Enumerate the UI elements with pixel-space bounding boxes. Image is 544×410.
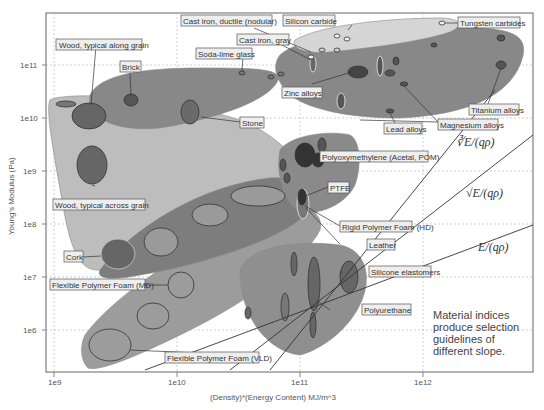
svg-text:different slope.: different slope.: [433, 345, 505, 357]
material-selection-chart: Wood, typical along grain Brick Cast iro…: [0, 0, 544, 410]
label-rigid-foam: Rigid Polymer Foam (HD): [340, 221, 434, 232]
svg-text:guidelines of: guidelines of: [433, 333, 496, 345]
label-silicone: Silicone elastomers: [369, 266, 440, 277]
label-titanium: Titanium alloys: [469, 104, 524, 115]
label-leather: Leather: [367, 239, 396, 250]
label-cork: Cork: [64, 251, 84, 262]
label-polyurethane: Polyurethane: [362, 304, 412, 315]
svg-text:Silicon carbide: Silicon carbide: [285, 17, 338, 26]
svg-text:1e10: 1e10: [168, 378, 186, 387]
y-tick-labels: 1e11 1e10 1e9 1e8 1e7 1e6: [20, 61, 38, 335]
svg-text:Polyurethane: Polyurethane: [364, 306, 412, 315]
label-brick: Brick: [120, 61, 141, 72]
svg-text:Titanium alloys: Titanium alloys: [471, 106, 524, 115]
label-cast-ductile: Cast iron, ductile (nodular): [181, 15, 277, 26]
label-zinc: Zinc alloys: [282, 87, 322, 98]
svg-text:Wood, typical across grain: Wood, typical across grain: [55, 201, 149, 210]
label-lead: Lead alloys: [384, 123, 426, 134]
label-ptfe: PTFE: [328, 182, 350, 193]
svg-text:Leather: Leather: [369, 241, 396, 250]
svg-text:Flexible Polymer Foam (MD): Flexible Polymer Foam (MD): [52, 281, 154, 290]
label-soda-glass: Soda-lime glass: [196, 48, 255, 59]
svg-text:1e11: 1e11: [20, 61, 38, 70]
svg-text:Material indices: Material indices: [433, 309, 510, 321]
label-magnesium: Magnesium alloys: [438, 119, 504, 130]
x-tick-labels: 1e9 1e10 1e11 1e12: [48, 378, 432, 387]
y-axis-ticks: [42, 65, 46, 330]
label-flex-md: Flexible Polymer Foam (MD): [50, 279, 154, 290]
formula-cbrt: ∛E/(qρ): [456, 134, 494, 149]
x-axis-ticks: [54, 372, 423, 377]
svg-text:produce selection: produce selection: [433, 321, 519, 333]
label-flex-vld: Flexible Polymer Foam (VLD): [165, 352, 272, 363]
label-silicon-carbide: Silicon carbide: [283, 15, 338, 26]
svg-text:Zinc alloys: Zinc alloys: [284, 89, 322, 98]
x-axis-title: (Density)*(Energy Content) MJ/m^3: [210, 393, 337, 402]
svg-text:1e9: 1e9: [23, 167, 37, 176]
svg-text:Lead alloys: Lead alloys: [386, 125, 426, 134]
svg-text:1e8: 1e8: [23, 220, 37, 229]
svg-text:Magnesium alloys: Magnesium alloys: [440, 121, 504, 130]
label-tungsten: Tungsten carbides: [458, 17, 526, 28]
y-axis-title: Young's Modulus (Pa): [7, 157, 16, 235]
svg-text:PTFE: PTFE: [330, 184, 350, 193]
label-wood-across: Wood, typical across grain: [53, 199, 149, 210]
svg-text:Cork: Cork: [66, 253, 84, 262]
svg-text:1e10: 1e10: [20, 114, 38, 123]
svg-text:1e11: 1e11: [291, 378, 309, 387]
svg-text:Rigid Polymer Foam (HD): Rigid Polymer Foam (HD): [342, 223, 434, 232]
label-cast-gray: Cast iron, gray: [237, 34, 291, 45]
svg-text:Wood, typical along grain: Wood, typical along grain: [59, 41, 149, 50]
svg-text:Silicone elastomers: Silicone elastomers: [371, 268, 440, 277]
svg-text:Tungsten carbides: Tungsten carbides: [460, 19, 526, 28]
formula-sqrt: √E/(qρ): [466, 186, 503, 200]
svg-text:Polyoxymethylene (Acetal, POM): Polyoxymethylene (Acetal, POM): [322, 153, 440, 162]
svg-text:1e12: 1e12: [414, 378, 432, 387]
svg-text:Brick: Brick: [122, 63, 141, 72]
svg-text:1e9: 1e9: [48, 378, 62, 387]
svg-text:1e6: 1e6: [23, 326, 37, 335]
svg-text:Soda-lime glass: Soda-lime glass: [198, 50, 255, 59]
formula-linear: E/(qρ): [477, 240, 508, 254]
svg-text:Flexible Polymer Foam (VLD): Flexible Polymer Foam (VLD): [167, 354, 272, 363]
label-pom: Polyoxymethylene (Acetal, POM): [320, 151, 440, 162]
svg-text:Stone: Stone: [242, 119, 263, 128]
label-stone: Stone: [240, 117, 264, 128]
svg-text:Cast iron, ductile (nodular): Cast iron, ductile (nodular): [183, 17, 277, 26]
svg-text:1e7: 1e7: [23, 273, 37, 282]
svg-text:Cast iron, gray: Cast iron, gray: [239, 36, 291, 45]
label-wood-along: Wood, typical along grain: [56, 39, 149, 50]
